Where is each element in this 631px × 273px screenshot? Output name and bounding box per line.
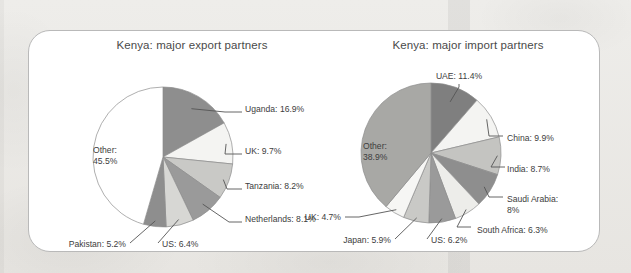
leader-line-japan — [395, 218, 417, 239]
leader-line-uk — [345, 210, 396, 217]
pie-label-uganda: Uganda: 16.9% — [245, 104, 305, 114]
pie-label-saudi-arabia-value: 8% — [507, 205, 520, 215]
pie-label-other-value: 45.5% — [93, 156, 118, 166]
pie-label-pakistan: Pakistan: 5.2% — [69, 239, 127, 249]
pie-label-china: China: 9.9% — [507, 133, 554, 143]
pie-label-other: Other: — [93, 145, 117, 155]
export-pie-chart: Uganda: 16.9%UK: 9.7%Tanzania: 8.2%Nethe… — [29, 31, 319, 253]
pie-label-india: India: 8.7% — [507, 164, 550, 174]
pie-label-other-value: 38.9% — [363, 152, 388, 162]
export-partners-panel: Kenya: major export partners Uganda: 16.… — [29, 31, 319, 251]
pie-label-uae: UAE: 11.4% — [436, 71, 483, 81]
pie-label-tanzania: Tanzania: 8.2% — [245, 181, 304, 191]
pie-label-uk: UK: 9.7% — [245, 146, 282, 156]
import-pie-chart: UAE: 11.4%China: 9.9%India: 8.7%Saudi Ar… — [311, 31, 601, 253]
charts-card: Kenya: major export partners Uganda: 16.… — [28, 30, 600, 252]
pie-label-us: US: 6.2% — [431, 235, 468, 245]
import-partners-panel: Kenya: major import partners UAE: 11.4%C… — [311, 31, 601, 251]
pie-label-uk: UK: 4.7% — [305, 212, 342, 222]
pie-label-saudi-arabia: Saudi Arabia: — [507, 194, 558, 204]
pie-label-us: US: 6.4% — [162, 239, 199, 249]
pie-label-japan: Japan: 5.9% — [343, 235, 391, 245]
pie-label-south-africa: South Africa: 6.3% — [477, 225, 548, 235]
pie-label-other: Other: — [363, 141, 387, 151]
